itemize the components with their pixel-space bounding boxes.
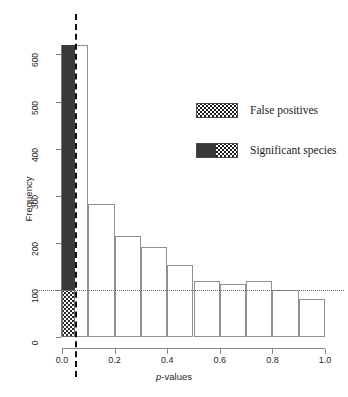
significant-species-region bbox=[62, 45, 75, 290]
histogram-bar bbox=[299, 299, 325, 337]
y-tick-label: 400 bbox=[18, 144, 52, 154]
x-tick bbox=[325, 349, 326, 354]
x-tick-label: 0.8 bbox=[252, 355, 292, 365]
reference-line-100 bbox=[36, 290, 344, 291]
legend-label-significant-species: Significant species bbox=[250, 144, 337, 156]
false-positives-region bbox=[62, 290, 75, 337]
y-axis-title: Frequency bbox=[23, 176, 34, 221]
legend-item-false-positives: False positives bbox=[196, 90, 344, 130]
y-tick bbox=[56, 54, 61, 55]
legend-item-significant-species: Significant species bbox=[196, 130, 344, 170]
y-tick bbox=[56, 102, 61, 103]
histogram-figure: 0100200300400500600 Frequency 0.00.20.40… bbox=[0, 0, 348, 397]
legend-swatch-stipple-icon bbox=[196, 103, 238, 118]
threshold-line-005 bbox=[75, 14, 77, 377]
x-tick bbox=[272, 349, 273, 354]
y-tick bbox=[56, 149, 61, 150]
y-tick bbox=[56, 196, 61, 197]
y-tick bbox=[56, 243, 61, 244]
histogram-bar bbox=[167, 265, 193, 337]
y-tick-label: 200 bbox=[18, 238, 52, 248]
y-tick-label: 600 bbox=[18, 49, 52, 59]
x-axis-line bbox=[62, 348, 325, 349]
x-axis-title: p-values bbox=[0, 371, 348, 382]
legend-label-false-positives: False positives bbox=[250, 104, 318, 116]
x-tick-label: 0.2 bbox=[95, 355, 135, 365]
legend: False positives Significant species bbox=[196, 90, 344, 170]
y-tick-label: 0 bbox=[18, 332, 52, 342]
x-axis-title-suffix: -values bbox=[161, 371, 192, 382]
histogram-bar bbox=[272, 290, 298, 337]
histogram-bar bbox=[141, 247, 167, 337]
plot-area bbox=[62, 45, 325, 337]
x-tick-label: 0.6 bbox=[200, 355, 240, 365]
y-tick-label: 500 bbox=[18, 97, 52, 107]
legend-swatch-dark-stipple-icon bbox=[196, 143, 238, 158]
x-tick-label: 0.4 bbox=[147, 355, 187, 365]
x-tick bbox=[62, 349, 63, 354]
y-tick bbox=[56, 337, 61, 338]
histogram-bar bbox=[88, 204, 114, 337]
x-tick bbox=[167, 349, 168, 354]
x-tick-label: 1.0 bbox=[305, 355, 345, 365]
histogram-bar bbox=[220, 284, 246, 337]
x-tick bbox=[115, 349, 116, 354]
histogram-bar bbox=[115, 236, 141, 337]
x-tick bbox=[220, 349, 221, 354]
